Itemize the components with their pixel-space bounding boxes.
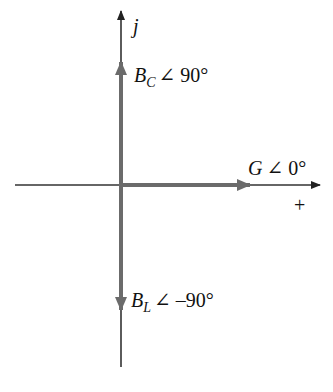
phasor-bc-subscript: C — [146, 75, 156, 90]
phasor-bc-symbol: B — [134, 64, 146, 86]
phasor-bl-label: BL∠ –90° — [131, 289, 214, 315]
phasor-g-label: G∠ 0° — [248, 157, 306, 179]
phasor-g-symbol: G — [248, 157, 263, 179]
phasor-bl-angle: ∠ –90° — [154, 289, 214, 311]
phasor-bl-subscript: L — [142, 300, 151, 315]
phasor-bl-symbol: B — [131, 289, 143, 311]
vertical-axis-label: j — [130, 15, 139, 38]
phasor-bc-label: BC∠ 90° — [134, 64, 208, 90]
phasor-bc-angle: ∠ 90° — [159, 64, 209, 86]
phasor-diagram: j + BC∠ 90° G∠ 0° BL∠ –90° — [0, 0, 333, 392]
horizontal-axis-label: + — [294, 194, 305, 216]
phasor-g-angle: ∠ 0° — [266, 157, 306, 179]
